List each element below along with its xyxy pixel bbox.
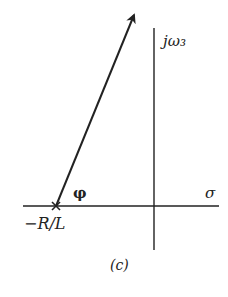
s-plane-diagram: jω₃ σ φ −R/L (c) bbox=[0, 0, 228, 297]
sigma-label: σ bbox=[205, 184, 216, 202]
vector-arrow bbox=[56, 15, 134, 206]
j-omega-label: jω₃ bbox=[160, 32, 186, 50]
pole-label: −R/L bbox=[24, 214, 65, 233]
angle-phi-label: φ bbox=[73, 184, 87, 202]
figure-caption: (c) bbox=[110, 257, 129, 273]
